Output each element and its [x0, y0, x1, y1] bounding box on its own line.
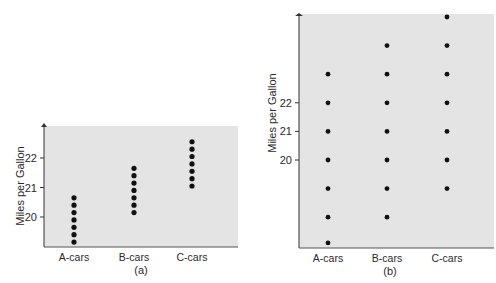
y-axis-arrow-a [41, 123, 47, 127]
y-tick-label: 20 [25, 211, 37, 223]
data-point [326, 158, 331, 163]
data-point [326, 241, 331, 246]
y-tick-label: 22 [280, 97, 292, 109]
data-point [189, 183, 194, 188]
data-point [71, 232, 76, 237]
data-point [131, 180, 136, 185]
y-tick-label: 20 [280, 154, 292, 166]
data-point [326, 215, 331, 220]
data-point [131, 166, 136, 171]
data-point [71, 210, 76, 215]
y-ticks-b: 202122 [280, 97, 299, 166]
data-point [131, 210, 136, 215]
data-point [189, 176, 194, 181]
chart-panel-b: 202122 Miles per Gallon A-cars B-cars C-… [250, 0, 496, 283]
data-point [71, 195, 76, 200]
data-point [385, 100, 390, 105]
data-point [326, 186, 331, 191]
chart-panel-a: 202122 Miles per Gallon A-cars B-cars C-… [0, 0, 250, 283]
y-axis-label-a: Miles per Gallon [14, 146, 26, 225]
data-point [445, 129, 450, 134]
data-point [131, 173, 136, 178]
data-point [71, 217, 76, 222]
data-point [385, 43, 390, 48]
x-category-b-0: A-cars [313, 252, 343, 264]
panel-label-b: (b) [383, 265, 396, 277]
y-ticks-a: 202122 [25, 152, 44, 223]
data-point [189, 147, 194, 152]
data-point [385, 129, 390, 134]
data-point [326, 129, 331, 134]
x-category-b-1: B-cars [372, 252, 402, 264]
data-point [445, 100, 450, 105]
data-point [385, 186, 390, 191]
data-point [189, 169, 194, 174]
x-category-a-2: C-cars [177, 251, 208, 263]
data-point [71, 239, 76, 244]
data-point [385, 158, 390, 163]
data-point [131, 188, 136, 193]
x-category-b-2: C-cars [432, 252, 463, 264]
chart-b-svg: 202122 Miles per Gallon A-cars B-cars C-… [250, 0, 496, 283]
data-point [189, 154, 194, 159]
x-category-a-0: A-cars [59, 251, 89, 263]
data-point [71, 203, 76, 208]
x-category-a-1: B-cars [119, 251, 149, 263]
data-point [445, 15, 450, 20]
data-point [445, 43, 450, 48]
chart-a-svg: 202122 Miles per Gallon A-cars B-cars C-… [0, 0, 250, 283]
y-axis-label-b: Miles per Gallon [266, 73, 278, 152]
data-point [326, 72, 331, 77]
data-point [445, 72, 450, 77]
data-point [385, 215, 390, 220]
data-point [326, 100, 331, 105]
data-point [131, 203, 136, 208]
data-point [445, 186, 450, 191]
data-point [385, 72, 390, 77]
data-point [189, 139, 194, 144]
data-point [71, 225, 76, 230]
data-point [189, 161, 194, 166]
data-point [131, 195, 136, 200]
y-tick-label: 22 [25, 152, 37, 164]
panel-label-a: (a) [134, 264, 147, 276]
y-tick-label: 21 [25, 182, 37, 194]
data-point [445, 158, 450, 163]
y-tick-label: 21 [280, 125, 292, 137]
